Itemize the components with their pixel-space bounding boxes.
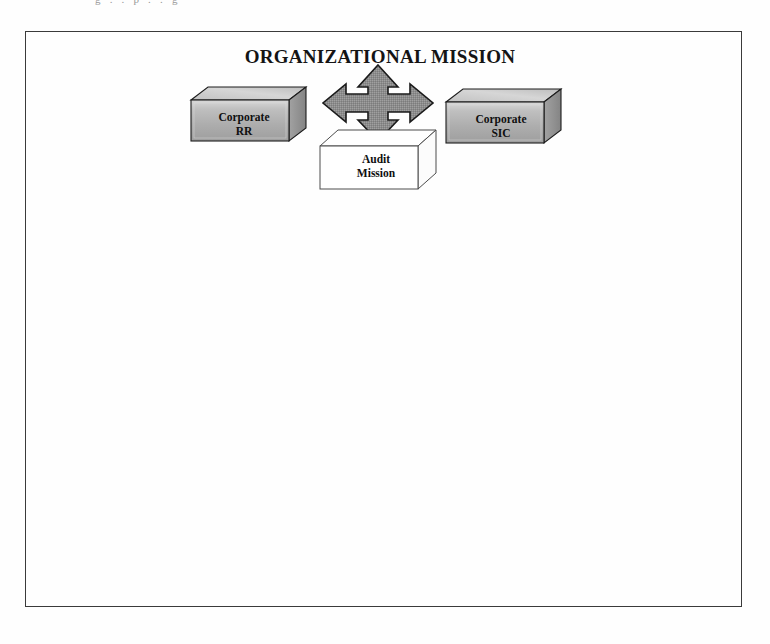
node-corporate-sic-graphic	[443, 86, 565, 150]
node-corporate-sic[interactable]: Corporate SIC	[443, 86, 565, 150]
node-audit-mission-graphic	[318, 128, 440, 194]
four-way-arrow	[300, 62, 460, 134]
four-way-arrow-graphic	[300, 62, 460, 134]
node-audit-mission[interactable]: Audit Mission	[318, 128, 440, 194]
scan-text-remnant: g . . p . . g	[95, 0, 415, 5]
node-corporate-rr-graphic	[188, 84, 310, 148]
scanned-page: g . . p . . g ORGANIZATIONAL MISSION	[0, 0, 770, 644]
node-corporate-rr[interactable]: Corporate RR	[188, 84, 310, 148]
